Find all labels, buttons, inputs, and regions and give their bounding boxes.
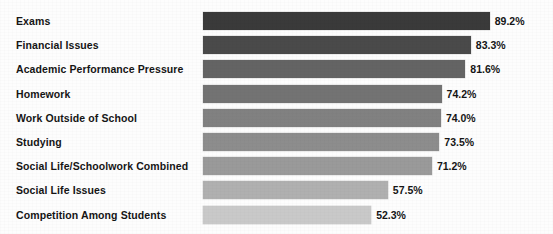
bar <box>203 12 490 30</box>
category-label: Competition Among Students <box>16 206 166 224</box>
bar-track <box>203 157 432 175</box>
category-label: Work Outside of School <box>16 109 137 127</box>
bar-track <box>203 181 388 199</box>
category-label: Exams <box>16 12 50 30</box>
bar-row: Social Life Issues57.5% <box>0 181 553 199</box>
category-label: Financial Issues <box>16 36 99 54</box>
bar <box>203 36 471 54</box>
bar-track <box>203 60 465 78</box>
bar-track <box>203 206 371 224</box>
bar-track <box>203 133 439 151</box>
category-label: Social Life/Schoolwork Combined <box>16 157 188 175</box>
category-label: Homework <box>16 85 70 103</box>
bar-track <box>203 36 471 54</box>
bar-row: Social Life/Schoolwork Combined71.2% <box>0 157 553 175</box>
bar-value-label: 52.3% <box>376 206 406 224</box>
bar-track <box>203 109 441 127</box>
bar-row: Studying73.5% <box>0 133 553 151</box>
category-label: Academic Performance Pressure <box>16 60 184 78</box>
bar <box>203 109 441 127</box>
bar-value-label: 74.0% <box>446 109 476 127</box>
category-label: Social Life Issues <box>16 181 106 199</box>
bar-value-label: 71.2% <box>437 157 467 175</box>
bar-row: Competition Among Students52.3% <box>0 206 553 224</box>
bar-row: Work Outside of School74.0% <box>0 109 553 127</box>
bar-value-label: 73.5% <box>444 133 474 151</box>
bar <box>203 157 432 175</box>
bar <box>203 181 388 199</box>
bar-row: Homework74.2% <box>0 85 553 103</box>
bar-value-label: 81.6% <box>470 60 500 78</box>
bar-value-label: 89.2% <box>495 12 525 30</box>
category-label: Studying <box>16 133 62 151</box>
bar <box>203 206 371 224</box>
bar-track <box>203 85 442 103</box>
bar <box>203 60 465 78</box>
bar-row: Exams89.2% <box>0 12 553 30</box>
bar-track <box>203 12 490 30</box>
bar-row: Academic Performance Pressure81.6% <box>0 60 553 78</box>
bar-value-label: 83.3% <box>476 36 506 54</box>
horizontal-bar-chart: Exams89.2%Financial Issues83.3%Academic … <box>0 0 553 234</box>
bar <box>203 85 442 103</box>
bar-value-label: 74.2% <box>447 85 477 103</box>
bar-row: Financial Issues83.3% <box>0 36 553 54</box>
bar <box>203 133 439 151</box>
bar-value-label: 57.5% <box>393 181 423 199</box>
